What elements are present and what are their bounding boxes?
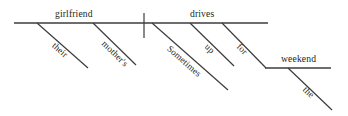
subject-label: girlfriend [55,9,93,19]
modifier-slant-sometimes [152,23,228,90]
verb-label: drives [190,9,214,19]
prepositional-object-label: weekend [281,54,316,64]
sentence-diagram-canvas: girlfriend drives weekend their mother's… [0,0,348,116]
